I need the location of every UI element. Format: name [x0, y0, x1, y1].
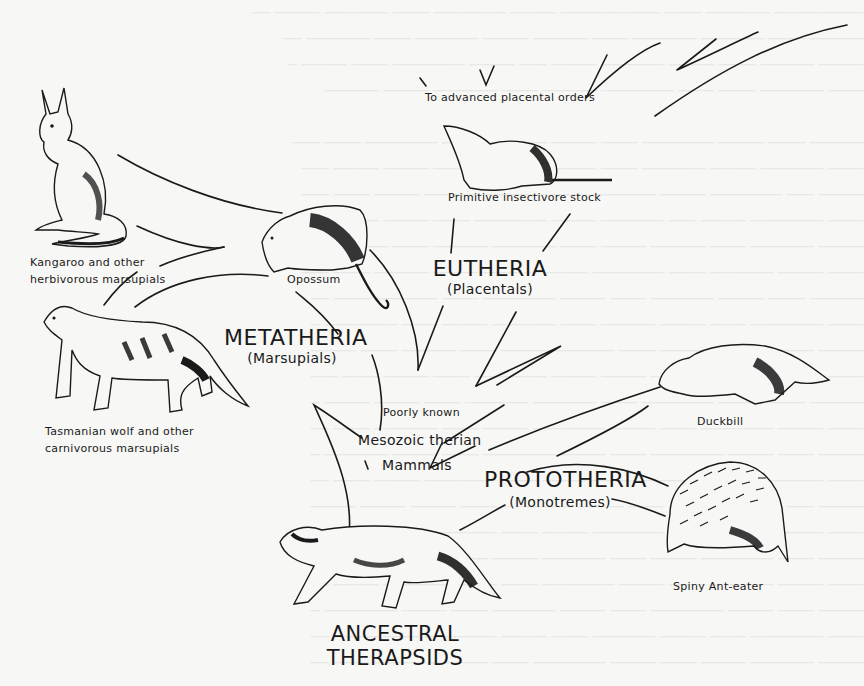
prototheria-title: PROTOTHERIA: [484, 468, 636, 492]
eutheria-title: EUTHERIA: [428, 257, 552, 281]
mesozoic-therian-label-line1: Mesozoic therian: [358, 431, 481, 449]
branch-eutheria-right: [476, 312, 516, 386]
branch-eutheria-wedge: [476, 346, 561, 386]
insectivore-illustration: [440, 120, 620, 200]
ancestral-therapsids-line1: ANCESTRAL: [320, 622, 470, 646]
metatheria-group: METATHERIA (Marsupials): [224, 326, 360, 366]
kangaroo-label: Kangaroo and other herbivorous marsupial…: [30, 254, 166, 288]
prototheria-group: PROTOTHERIA (Monotremes): [484, 468, 636, 510]
metatheria-subtitle: (Marsupials): [224, 350, 360, 366]
opossum-illustration: [260, 200, 396, 316]
advanced-placental-orders-label: To advanced placental orders: [425, 89, 595, 106]
ancestral-therapsids-line2: THERAPSIDS: [320, 646, 470, 670]
duckbill-label: Duckbill: [697, 413, 743, 430]
insectivore-label: Primitive insectivore stock: [448, 189, 601, 206]
kangaroo-illustration: [28, 84, 138, 252]
branch-kangaroo-top: [118, 155, 282, 213]
branch-insectivore-left: [451, 219, 454, 253]
branch-advanced-c: [586, 43, 660, 98]
tasmanian-wolf-illustration: [42, 300, 252, 420]
metatheria-title: METATHERIA: [224, 326, 360, 350]
tasmanian-wolf-label: Tasmanian wolf and other carnivorous mar…: [45, 423, 194, 457]
kangaroo-label-line1: Kangaroo and other: [30, 254, 166, 271]
branch-mesozoic-to-metatheria: [372, 355, 382, 430]
therapsid-illustration: [278, 520, 504, 612]
eutheria-subtitle: (Placentals): [428, 281, 552, 297]
opossum-label: Opossum: [287, 271, 341, 288]
branch-metatheria-to-kangaroo-b: [160, 247, 224, 266]
branch-insectivore-right: [543, 214, 570, 251]
branch-advanced-e: [655, 25, 847, 116]
poorly-known-note: Poorly known: [383, 404, 460, 421]
branch-advanced-a: [420, 78, 426, 86]
branch-mesozoic-v: [365, 461, 368, 469]
branch-eutheria-left: [418, 306, 443, 370]
kangaroo-label-line2: herbivorous marsupials: [30, 271, 166, 288]
tasmanian-wolf-label-line2: carnivorous marsupials: [45, 440, 194, 457]
spiny-anteater-label: Spiny Ant-eater: [673, 578, 763, 595]
ancestral-therapsids-label: ANCESTRAL THERAPSIDS: [320, 622, 470, 670]
eutheria-group: EUTHERIA (Placentals): [428, 257, 552, 297]
spiny-anteater-illustration: [660, 454, 796, 572]
branch-advanced-d: [677, 32, 758, 70]
tasmanian-wolf-label-line1: Tasmanian wolf and other: [45, 423, 194, 440]
duckbill-illustration: [655, 334, 835, 414]
mesozoic-therian-label-line2: Mammals: [382, 456, 452, 474]
branch-prototheria-to-duckbill-a: [489, 387, 660, 450]
branch-metatheria-to-kangaroo-a: [137, 226, 224, 248]
branch-advanced-b: [480, 66, 494, 85]
branch-prototheria-to-duckbill-b: [557, 406, 648, 456]
prototheria-subtitle: (Monotremes): [484, 494, 636, 510]
